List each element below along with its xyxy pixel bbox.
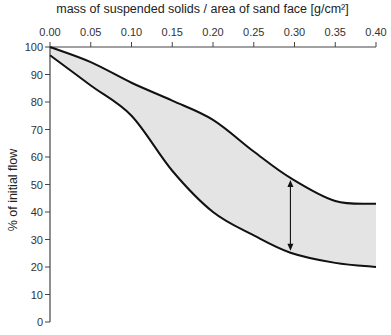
y-tick-label: 50 <box>31 179 43 191</box>
x-tick-label: 0.25 <box>243 26 264 38</box>
x-tick-label: 0.20 <box>202 26 223 38</box>
y-tick-label: 80 <box>31 96 43 108</box>
chart-plot: 0.000.050.100.150.200.250.300.350.400102… <box>0 0 391 335</box>
y-tick-label: 90 <box>31 69 43 81</box>
x-tick-label: 0.15 <box>162 26 183 38</box>
band-fill <box>50 47 376 267</box>
x-tick-label: 0.05 <box>80 26 101 38</box>
y-tick-label: 60 <box>31 151 43 163</box>
x-tick-label: 0.40 <box>365 26 386 38</box>
x-tick-label: 0.00 <box>39 26 60 38</box>
x-tick-label: 0.30 <box>284 26 305 38</box>
y-tick-label: 30 <box>31 234 43 246</box>
y-tick-label: 40 <box>31 206 43 218</box>
y-tick-label: 70 <box>31 124 43 136</box>
y-tick-label: 10 <box>31 289 43 301</box>
y-tick-label: 100 <box>25 41 43 53</box>
x-tick-label: 0.35 <box>325 26 346 38</box>
x-tick-label: 0.10 <box>121 26 142 38</box>
shaded-band <box>50 47 376 267</box>
y-tick-label: 0 <box>37 316 43 328</box>
y-tick-label: 20 <box>31 261 43 273</box>
